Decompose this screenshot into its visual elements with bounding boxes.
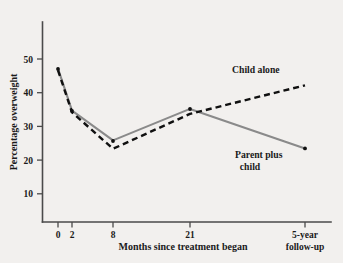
chart-background [0,0,343,263]
line-chart: 50 40 30 20 10 Percentage overweight 0 2… [0,0,343,263]
y-tick-label-40: 40 [24,88,34,98]
x-tick-label-5year-line2: follow-up [286,242,325,252]
x-tick-label-5year-line1: 5-year [292,230,319,240]
data-point-marker [303,147,307,151]
chart-figure: 50 40 30 20 10 Percentage overweight 0 2… [0,0,343,263]
y-axis-title: Percentage overweight [8,73,19,170]
x-tick-label-21: 21 [185,230,195,240]
x-axis-title: Months since treatment began [119,241,248,252]
data-point-marker [70,109,74,113]
y-tick-label-30: 30 [24,122,34,132]
y-tick-label-10: 10 [24,189,34,199]
series-label-child: child [240,161,261,172]
series-label-parent-plus: Parent plus [235,149,283,160]
y-tick-label-50: 50 [24,55,34,65]
x-tick-label-0: 0 [56,230,61,240]
x-tick-label-2: 2 [70,230,75,240]
data-point-marker [188,107,192,111]
x-tick-label-8: 8 [111,230,116,240]
data-point-marker [56,67,60,71]
data-point-marker [111,139,115,143]
series-label-child-alone: Child alone [232,64,280,75]
y-tick-label-20: 20 [24,156,34,166]
